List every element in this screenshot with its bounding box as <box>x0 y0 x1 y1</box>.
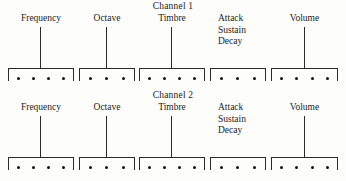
control-dot <box>280 166 283 169</box>
parameter-label-line: Timbre <box>139 13 205 25</box>
synth-channel-diagram: Channel 1 FrequencyOctaveTimbreAttackSus… <box>0 0 346 181</box>
control-dot-row <box>80 163 134 171</box>
parameter-label-line: Octave <box>79 102 135 114</box>
control-dot <box>311 166 314 169</box>
control-dot-row <box>9 163 73 171</box>
parameter-group-label: Frequency <box>8 13 74 25</box>
control-dot <box>105 166 108 169</box>
group-bracket <box>271 157 338 170</box>
control-dot <box>32 77 35 80</box>
parameter-group-label: AttackSustainDecay <box>218 102 246 137</box>
control-dot <box>295 77 298 80</box>
control-dot <box>280 77 283 80</box>
control-dot <box>89 77 92 80</box>
control-dot <box>32 166 35 169</box>
control-dot <box>122 77 125 80</box>
control-dot-row <box>80 74 134 82</box>
group-connector-stem <box>40 27 41 68</box>
channel-block-1: Channel 1 FrequencyOctaveTimbreAttackSus… <box>0 0 346 90</box>
parameter-group: Timbre <box>139 0 205 90</box>
parameter-group-label: Octave <box>79 13 135 25</box>
control-dot <box>62 166 65 169</box>
group-bracket <box>139 68 205 81</box>
control-dot-row <box>272 74 337 82</box>
control-dot-row <box>140 163 204 171</box>
control-dot <box>148 77 151 80</box>
parameter-group-label: Volume <box>271 102 338 114</box>
control-dot <box>62 77 65 80</box>
control-dot <box>47 166 50 169</box>
control-dot-row <box>140 74 204 82</box>
control-dot <box>47 77 50 80</box>
parameter-group: Volume <box>271 0 338 90</box>
control-dot <box>253 77 256 80</box>
control-dot <box>163 77 166 80</box>
parameter-label-line: Frequency <box>8 13 74 25</box>
parameter-group-label: Volume <box>271 13 338 25</box>
group-bracket <box>210 68 266 81</box>
parameter-label-line: Sustain <box>218 114 246 126</box>
group-bracket <box>139 157 205 170</box>
group-bracket <box>210 157 266 170</box>
group-bracket <box>8 68 74 81</box>
parameter-label-line: Volume <box>271 13 338 25</box>
parameter-group: AttackSustainDecay <box>210 89 266 179</box>
parameter-group: AttackSustainDecay <box>210 0 266 90</box>
control-dot <box>163 166 166 169</box>
group-connector-stem <box>40 116 41 157</box>
channel-block-2: Channel 2 FrequencyOctaveTimbreAttackSus… <box>0 89 346 179</box>
control-dot <box>295 166 298 169</box>
control-dot <box>220 77 223 80</box>
parameter-group-label: Octave <box>79 102 135 114</box>
parameter-label-line: Decay <box>218 36 246 48</box>
parameter-label-line: Sustain <box>218 25 246 37</box>
control-dot-row <box>272 163 337 171</box>
parameter-group: Timbre <box>139 89 205 179</box>
control-dot <box>236 166 239 169</box>
group-bracket <box>271 68 338 81</box>
parameter-group-label: AttackSustainDecay <box>218 13 246 48</box>
group-connector-stem <box>304 116 305 157</box>
control-dot <box>236 77 239 80</box>
control-dot-row <box>211 74 265 82</box>
control-dot <box>178 166 181 169</box>
control-dot <box>148 166 151 169</box>
group-bracket <box>79 157 135 170</box>
parameter-group-label: Frequency <box>8 102 74 114</box>
control-dot <box>253 166 256 169</box>
group-connector-stem <box>106 27 107 68</box>
parameter-label-line: Volume <box>271 102 338 114</box>
parameter-label-line: Attack <box>218 13 246 25</box>
parameter-group: Frequency <box>8 0 74 90</box>
parameter-label-line: Decay <box>218 125 246 137</box>
control-dot <box>178 77 181 80</box>
group-connector-stem <box>106 116 107 157</box>
control-dot <box>193 77 196 80</box>
control-dot <box>122 166 125 169</box>
parameter-group: Volume <box>271 89 338 179</box>
parameter-group: Octave <box>79 89 135 179</box>
parameter-group: Octave <box>79 0 135 90</box>
control-dot <box>326 77 329 80</box>
control-dot <box>89 166 92 169</box>
control-dot <box>105 77 108 80</box>
parameter-label-line: Attack <box>218 102 246 114</box>
control-dot-row <box>211 163 265 171</box>
parameter-label-line: Octave <box>79 13 135 25</box>
parameter-label-line: Frequency <box>8 102 74 114</box>
control-dot-row <box>9 74 73 82</box>
group-bracket <box>8 157 74 170</box>
control-dot <box>326 166 329 169</box>
control-dot <box>311 77 314 80</box>
parameter-label-line: Timbre <box>139 102 205 114</box>
control-dot <box>193 166 196 169</box>
parameter-group: Frequency <box>8 89 74 179</box>
control-dot <box>17 77 20 80</box>
control-dot <box>17 166 20 169</box>
control-dot <box>220 166 223 169</box>
parameter-group-label: Timbre <box>139 13 205 25</box>
group-connector-stem <box>171 27 172 68</box>
group-bracket <box>79 68 135 81</box>
parameter-group-label: Timbre <box>139 102 205 114</box>
group-connector-stem <box>304 27 305 68</box>
